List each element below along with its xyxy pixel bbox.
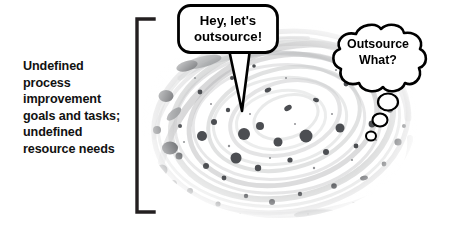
thought-bubble-text: Outsource What? <box>332 37 424 68</box>
speech-bubble-tail <box>228 45 250 111</box>
diagram-canvas: Undefined process improvement goals and … <box>0 0 450 240</box>
thought-trail-bubble-1 <box>378 94 398 111</box>
thought-trail-bubble-2 <box>373 114 388 127</box>
speech-bubble-text: Hey, let's outsource! <box>181 13 275 45</box>
thought-trail-bubble-3 <box>366 132 376 141</box>
caption-text: Undefined process improvement goals and … <box>23 58 131 157</box>
